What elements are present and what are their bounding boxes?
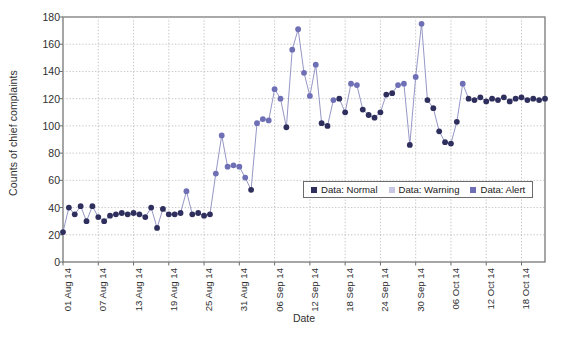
data-point bbox=[201, 213, 207, 219]
data-point bbox=[119, 210, 125, 216]
data-point bbox=[160, 206, 166, 212]
data-point bbox=[89, 203, 95, 209]
data-point bbox=[524, 97, 530, 103]
data-point bbox=[66, 205, 72, 211]
y-axis-title: Counts of chief complaints bbox=[2, 28, 24, 238]
data-point bbox=[137, 211, 143, 217]
x-tick-label: 18 Sep 14 bbox=[344, 268, 355, 312]
data-point bbox=[366, 112, 372, 118]
data-point bbox=[142, 214, 148, 220]
data-point bbox=[307, 93, 313, 99]
data-point bbox=[389, 90, 395, 96]
x-tick-label: 25 Aug 14 bbox=[203, 268, 214, 311]
legend-label: Data: Warning bbox=[399, 184, 460, 195]
x-tick-label: 18 Oct 14 bbox=[520, 268, 531, 310]
data-point bbox=[383, 92, 389, 98]
data-point bbox=[101, 218, 107, 224]
data-point bbox=[407, 142, 413, 148]
data-point bbox=[166, 211, 172, 217]
data-point bbox=[354, 82, 360, 88]
data-point bbox=[395, 82, 401, 88]
data-point bbox=[530, 96, 536, 102]
data-point bbox=[513, 96, 519, 102]
x-axis-title: Date bbox=[63, 312, 545, 324]
data-point bbox=[195, 210, 201, 216]
data-point bbox=[295, 26, 301, 32]
data-point bbox=[72, 211, 78, 217]
data-point bbox=[189, 211, 195, 217]
data-point bbox=[336, 96, 342, 102]
y-tick-label: 100 bbox=[26, 120, 60, 132]
data-point bbox=[413, 74, 419, 80]
x-tick-label: 06 Sep 14 bbox=[273, 268, 284, 312]
legend-swatch-icon bbox=[470, 187, 476, 193]
data-point bbox=[84, 218, 90, 224]
data-point bbox=[231, 162, 237, 168]
data-point bbox=[131, 210, 137, 216]
y-tick-label: 60 bbox=[26, 174, 60, 186]
data-point bbox=[401, 81, 407, 87]
data-point bbox=[213, 171, 219, 177]
data-point bbox=[507, 98, 513, 104]
y-tick-label: 40 bbox=[26, 202, 60, 214]
data-point bbox=[442, 139, 448, 145]
chart-container: Counts of chief complaints 0204060801001… bbox=[0, 0, 564, 345]
data-point bbox=[519, 94, 525, 100]
data-point bbox=[236, 164, 242, 170]
legend-swatch-icon bbox=[311, 187, 317, 193]
data-point bbox=[501, 94, 507, 100]
data-point bbox=[330, 97, 336, 103]
data-point bbox=[272, 86, 278, 92]
data-point bbox=[148, 205, 154, 211]
data-point bbox=[95, 214, 101, 220]
data-point bbox=[283, 124, 289, 130]
data-point bbox=[454, 119, 460, 125]
y-tick-label: 80 bbox=[26, 147, 60, 159]
legend-item[interactable]: Data: Normal bbox=[311, 184, 378, 195]
data-point bbox=[483, 98, 489, 104]
data-point bbox=[172, 211, 178, 217]
data-point bbox=[378, 109, 384, 115]
data-point bbox=[348, 81, 354, 87]
data-point bbox=[472, 97, 478, 103]
data-point bbox=[542, 96, 548, 102]
chart-legend: Data: NormalData: WarningData: Alert bbox=[303, 181, 533, 198]
x-tick-label: 13 Aug 14 bbox=[132, 268, 143, 311]
data-point bbox=[125, 211, 131, 217]
data-point bbox=[178, 210, 184, 216]
data-point bbox=[436, 128, 442, 134]
data-point bbox=[536, 97, 542, 103]
data-point bbox=[289, 47, 295, 53]
data-point bbox=[207, 211, 213, 217]
data-point bbox=[313, 62, 319, 68]
data-point bbox=[260, 116, 266, 122]
y-tick-label: 180 bbox=[26, 11, 60, 23]
data-point bbox=[113, 211, 119, 217]
x-tick-label: 24 Sep 14 bbox=[379, 268, 390, 312]
data-point bbox=[254, 120, 260, 126]
legend-item[interactable]: Data: Alert bbox=[470, 184, 525, 195]
data-point bbox=[266, 118, 272, 124]
data-point bbox=[225, 164, 231, 170]
data-point bbox=[489, 96, 495, 102]
data-point bbox=[107, 213, 113, 219]
data-point bbox=[60, 229, 66, 235]
data-point bbox=[301, 70, 307, 76]
x-tick-label: 01 Aug 14 bbox=[62, 268, 73, 311]
data-point bbox=[425, 97, 431, 103]
data-point bbox=[319, 120, 325, 126]
legend-item[interactable]: Data: Warning bbox=[389, 184, 460, 195]
data-point bbox=[460, 81, 466, 87]
x-tick-label: 30 Sep 14 bbox=[414, 268, 425, 312]
data-point bbox=[372, 115, 378, 121]
data-point bbox=[342, 109, 348, 115]
data-point bbox=[495, 97, 501, 103]
x-tick-label: 12 Sep 14 bbox=[308, 268, 319, 312]
legend-label: Data: Normal bbox=[321, 184, 378, 195]
data-point bbox=[248, 187, 254, 193]
x-tick-label: 31 Aug 14 bbox=[238, 268, 249, 311]
y-tick-label: 120 bbox=[26, 93, 60, 105]
x-tick-label: 07 Aug 14 bbox=[97, 268, 108, 311]
x-tick-label: 19 Aug 14 bbox=[167, 268, 178, 311]
legend-label: Data: Alert bbox=[480, 184, 525, 195]
